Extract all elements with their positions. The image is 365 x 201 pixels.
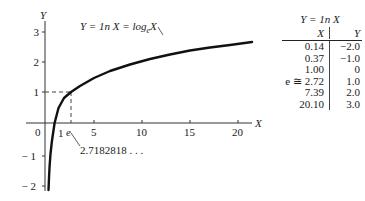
table-row: 0.14 −2.0 — [282, 41, 362, 53]
y-axis-label: Y — [40, 10, 46, 21]
cell-x: 7.39 — [282, 87, 330, 99]
origin-label: 0 — [35, 127, 41, 138]
cell-x: 20.10 — [282, 99, 330, 111]
table-row: 20.10 3.0 — [282, 99, 362, 111]
cell-y: 0 — [330, 64, 360, 76]
y-tick-1: 1 — [23, 87, 39, 98]
x-tick-5: 5 — [91, 127, 97, 138]
e-value-label: 2.7182818 . . . — [80, 145, 143, 156]
e-value-pointer — [71, 133, 80, 146]
cell-y: 3.0 — [330, 99, 360, 111]
column-header-x: X — [282, 27, 330, 39]
table-header: X Y — [282, 27, 362, 41]
cell-y: 2.0 — [330, 87, 360, 99]
x-tick-10: 10 — [136, 127, 147, 138]
curve-equation-label: Y = 1n X = logeX — [80, 21, 157, 35]
ln-curve — [49, 42, 253, 190]
x-tick-1: 1 — [58, 128, 64, 139]
cell-y: −2.0 — [330, 41, 360, 53]
x-tick-20: 20 — [232, 127, 243, 138]
table-title: Y = 1n X — [278, 13, 362, 25]
column-header-y: Y — [330, 27, 360, 39]
table-row: 1.00 0 — [282, 64, 362, 76]
y-tick-minus-2: − 2 — [20, 181, 36, 192]
y-tick-2: 2 — [23, 57, 39, 68]
equation-pointer — [158, 27, 163, 35]
table-row: 7.39 2.0 — [282, 87, 362, 99]
equation-main: Y = 1n X = log — [80, 20, 147, 32]
y-tick-minus-1: − 1 — [20, 151, 36, 162]
x-axis-label: X — [255, 118, 262, 129]
x-tick-e: e — [66, 127, 71, 138]
cell-x: 1.00 — [282, 64, 330, 76]
y-tick-3: 3 — [23, 27, 39, 38]
x-tick-15: 15 — [184, 127, 195, 138]
cell-x: 0.14 — [282, 41, 330, 53]
equation-suffix: X — [150, 20, 157, 32]
ln-values-table: Y = 1n X X Y 0.14 −2.0 0.37 −1.0 1.00 0 … — [282, 13, 362, 110]
